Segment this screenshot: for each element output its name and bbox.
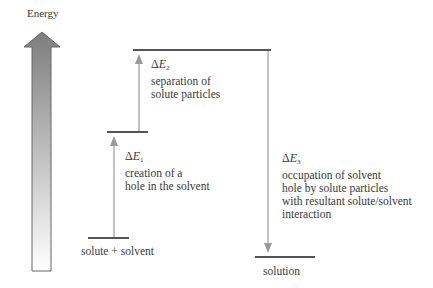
energy-axis-arrow-icon <box>24 32 60 271</box>
delta-e3-symbol: ΔE3 <box>282 152 412 169</box>
delta-e1-symbol: ΔE1 <box>125 150 210 167</box>
delta-e1-annotation: ΔE1 creation of a hole in the solvent <box>125 150 210 193</box>
energy-diagram-graphics <box>0 0 433 288</box>
arrow-down-icon <box>264 51 272 253</box>
delta-e3-annotation: ΔE3 occupation of solvent hole by solute… <box>282 152 412 221</box>
delta-e2-desc-line: solute particles <box>151 88 220 101</box>
arrow-up-icon <box>135 54 143 131</box>
delta-e3-desc-line: with resultant solute/solvent <box>282 195 412 208</box>
delta-e3-desc-line: interaction <box>282 208 412 221</box>
delta-e2-symbol: ΔE2 <box>151 58 220 75</box>
level-label-solute-solvent: solute + solvent <box>81 245 154 258</box>
delta-e1-desc-line: hole in the solvent <box>125 180 210 193</box>
arrow-up-icon <box>110 136 118 237</box>
delta-e1-desc-line: creation of a <box>125 167 210 180</box>
level-label-solution: solution <box>263 265 300 278</box>
delta-e3-desc-line: occupation of solvent <box>282 169 412 182</box>
delta-e2-desc-line: separation of <box>151 75 220 88</box>
delta-e2-annotation: ΔE2 separation of solute particles <box>151 58 220 101</box>
energy-axis-label: Energy <box>27 7 59 20</box>
delta-e3-desc-line: hole by solute particles <box>282 182 412 195</box>
